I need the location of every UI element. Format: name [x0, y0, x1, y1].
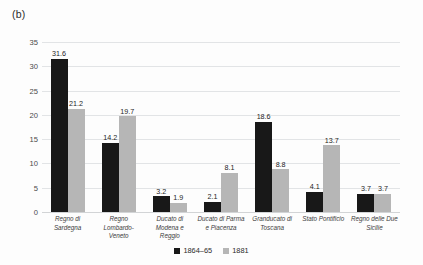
legend-label: 1881 [232, 247, 248, 254]
bar-value-label: 21.2 [69, 100, 83, 107]
bar-value-label: 8.1 [224, 164, 234, 171]
panel-label: (b) [12, 8, 25, 20]
bar-value-label: 8.8 [276, 161, 286, 168]
bar-slot: 4.1 [306, 42, 323, 212]
bar[interactable]: 14.2 [102, 143, 119, 212]
bar[interactable]: 3.7 [357, 194, 374, 212]
y-tick-label-10: 10 [12, 159, 38, 168]
bar-value-label: 2.1 [207, 193, 217, 200]
bar-slot: 3.2 [153, 42, 170, 212]
bar-slot: 1.9 [170, 42, 187, 212]
bar-value-label: 3.2 [156, 188, 166, 195]
bar[interactable]: 31.6 [51, 59, 68, 212]
bar-group-inner: 3.73.7 [349, 42, 400, 212]
bar-value-label: 14.2 [103, 134, 117, 141]
y-tick-label-35: 35 [12, 38, 38, 47]
x-axis-label: Granducato di Toscana [247, 215, 298, 245]
bar-value-label: 1.9 [173, 194, 183, 201]
y-axis: 05101520253035 [8, 42, 38, 212]
legend-swatch-icon [223, 248, 229, 254]
bar[interactable]: 19.7 [119, 116, 136, 212]
bar-slot: 8.8 [272, 42, 289, 212]
bar-group: 3.73.7 [349, 42, 400, 212]
legend-item[interactable]: 1881 [223, 247, 248, 254]
x-axis-label: Ducato di Parma e Piacenza [195, 215, 246, 245]
legend-label: 1864–65 [183, 247, 212, 254]
bar-slot: 2.1 [204, 42, 221, 212]
bar-slot: 13.7 [323, 42, 340, 212]
y-tick-label-20: 20 [12, 110, 38, 119]
gridline-0 [42, 212, 400, 213]
y-tick-label-30: 30 [12, 62, 38, 71]
legend-item[interactable]: 1864–65 [174, 247, 212, 254]
x-axis-label: Regno di Sardegna [42, 215, 93, 245]
bar[interactable]: 4.1 [306, 192, 323, 212]
bar-value-label: 13.7 [325, 137, 339, 144]
bar-group: 14.219.7 [93, 42, 144, 212]
x-axis-label: Regno Lombardo-Veneto [93, 215, 144, 245]
bar-group: 18.68.8 [247, 42, 298, 212]
bar-slot: 21.2 [68, 42, 85, 212]
bar-value-label: 18.6 [257, 113, 271, 120]
bar-slot: 14.2 [102, 42, 119, 212]
x-axis-label: Ducato di Modena e Reggio [144, 215, 195, 245]
legend: 1864–651881 [0, 247, 423, 254]
y-tick-label-0: 0 [12, 208, 38, 217]
bar-group-inner: 14.219.7 [93, 42, 144, 212]
bar-group-inner: 3.21.9 [144, 42, 195, 212]
x-axis-category-labels: Regno di SardegnaRegno Lombardo-VenetoDu… [42, 215, 400, 245]
bar-value-label: 19.7 [120, 108, 134, 115]
bar[interactable]: 2.1 [204, 202, 221, 212]
bar[interactable]: 13.7 [323, 145, 340, 212]
figure-panel-b: (b) 05101520253035 31.621.214.219.73.21.… [0, 0, 423, 265]
bar-group: 3.21.9 [144, 42, 195, 212]
bar-group-inner: 18.68.8 [247, 42, 298, 212]
bar-value-label: 4.1 [310, 183, 320, 190]
bar[interactable]: 8.1 [221, 173, 238, 212]
bar-slot: 19.7 [119, 42, 136, 212]
bar-value-label: 31.6 [52, 50, 66, 57]
bar[interactable]: 8.8 [272, 169, 289, 212]
bar[interactable]: 1.9 [170, 203, 187, 212]
bar[interactable]: 3.2 [153, 196, 170, 212]
bar[interactable]: 21.2 [68, 109, 85, 212]
x-axis-label: Stato Pontificio [298, 215, 349, 245]
bar-slot: 18.6 [255, 42, 272, 212]
bar-group: 4.113.7 [298, 42, 349, 212]
bar[interactable]: 3.7 [374, 194, 391, 212]
bar-slot: 31.6 [51, 42, 68, 212]
bar-group: 31.621.2 [42, 42, 93, 212]
x-axis-label: Regno delle Due Sicilie [349, 215, 400, 245]
bar[interactable]: 18.6 [255, 122, 272, 212]
legend-swatch-icon [174, 248, 180, 254]
bar-slot: 3.7 [357, 42, 374, 212]
bar-groups: 31.621.214.219.73.21.92.18.118.68.84.113… [42, 42, 400, 212]
bar-value-label: 3.7 [361, 185, 371, 192]
y-tick-label-25: 25 [12, 86, 38, 95]
y-tick-label-5: 5 [12, 183, 38, 192]
bar-slot: 3.7 [374, 42, 391, 212]
bar-group: 2.18.1 [195, 42, 246, 212]
bar-group-inner: 4.113.7 [298, 42, 349, 212]
bar-group-inner: 31.621.2 [42, 42, 93, 212]
y-tick-label-15: 15 [12, 135, 38, 144]
bar-slot: 8.1 [221, 42, 238, 212]
bar-group-inner: 2.18.1 [195, 42, 246, 212]
bar-value-label: 3.7 [378, 185, 388, 192]
